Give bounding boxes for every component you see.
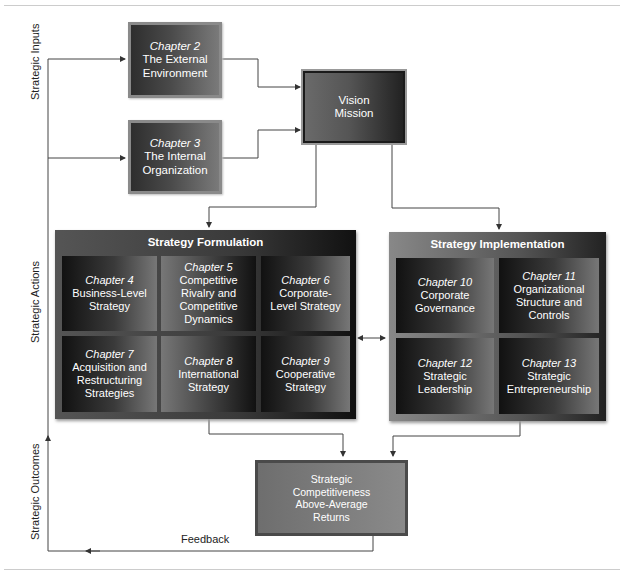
panel-title: Strategy Formulation — [55, 236, 356, 248]
cell-text: Cooperative — [276, 368, 335, 381]
cell-text: Controls — [529, 309, 570, 322]
chapter-label: Chapter 11 — [522, 270, 576, 283]
cell-text: Competitive — [179, 300, 237, 313]
implementation-cell: Chapter 11OrganizationalStructure andCon… — [499, 258, 599, 333]
cell-text: Entrepreneurship — [507, 383, 591, 396]
panel-title: Strategy Implementation — [389, 238, 606, 250]
box-text: Competitiveness — [293, 486, 371, 499]
cell-text: Restructuring — [77, 374, 142, 387]
strategic-outcomes-label: Strategic Outcomes — [29, 443, 41, 540]
cell-text: Leadership — [418, 383, 472, 396]
cell-text: Strategic — [423, 370, 466, 383]
cell-text: Organizational — [514, 283, 585, 296]
strategic-actions-label: Strategic Actions — [29, 261, 41, 343]
implementation-cell: Chapter 10CorporateGovernance — [396, 258, 494, 333]
cell-text: Strategy — [188, 381, 229, 394]
cell-text: Acquisition and — [72, 361, 147, 374]
strategy-formulation-panel: Strategy Formulation Chapter 4Business-L… — [55, 230, 356, 419]
strategy-implementation-panel: Strategy Implementation Chapter 10Corpor… — [389, 232, 606, 421]
chapter-label: Chapter 3 — [150, 137, 201, 151]
cell-text: Business-Level — [72, 287, 147, 300]
box-text: Vision — [338, 94, 369, 108]
chapter-label: Chapter 13 — [522, 357, 576, 370]
cell-text: Rivalry and — [181, 287, 236, 300]
box-text: The External — [142, 53, 207, 67]
cell-text: Strategy — [89, 300, 130, 313]
chapter-label: Chapter 5 — [184, 261, 232, 274]
strategic-inputs-label: Strategic Inputs — [29, 24, 41, 100]
chapter-label: Chapter 2 — [150, 40, 201, 54]
chapter-label: Chapter 7 — [85, 348, 133, 361]
chapter-label: Chapter 8 — [184, 355, 232, 368]
cell-text: Dynamics — [184, 313, 232, 326]
formulation-cell: Chapter 4Business-LevelStrategy — [62, 256, 157, 331]
chapter-label: Chapter 12 — [418, 357, 472, 370]
box-text: Returns — [313, 511, 350, 524]
input-internal-organization: Chapter 3 The Internal Organization — [128, 120, 222, 194]
cell-text: Strategies — [85, 387, 135, 400]
cell-text: Level Strategy — [270, 300, 340, 313]
implementation-cell: Chapter 13StrategicEntrepreneurship — [499, 338, 599, 414]
chapter-label: Chapter 6 — [281, 274, 329, 287]
cell-text: Strategy — [285, 381, 326, 394]
box-text: The Internal — [144, 150, 205, 164]
formulation-cell: Chapter 8InternationalStrategy — [161, 336, 256, 412]
formulation-cell: Chapter 5CompetitiveRivalry andCompetiti… — [161, 256, 256, 331]
box-text: Environment — [143, 67, 208, 81]
cell-text: International — [178, 368, 239, 381]
cell-text: Corporate — [421, 289, 470, 302]
chapter-label: Chapter 10 — [418, 276, 472, 289]
chapter-label: Chapter 4 — [85, 274, 133, 287]
cell-text: Structure and — [516, 296, 582, 309]
box-text: Above-Average — [295, 498, 367, 511]
feedback-label: Feedback — [181, 533, 229, 545]
formulation-cell: Chapter 7Acquisition andRestructuringStr… — [62, 336, 157, 412]
box-text: Mission — [335, 107, 374, 121]
box-text: Organization — [142, 164, 207, 178]
vision-mission-box: Vision Mission — [302, 70, 406, 144]
formulation-cell: Chapter 9CooperativeStrategy — [261, 336, 350, 412]
formulation-cell: Chapter 6Corporate-Level Strategy — [261, 256, 350, 331]
strategic-outcome-box: Strategic Competitiveness Above-Average … — [255, 460, 408, 536]
cell-text: Governance — [415, 302, 475, 315]
input-external-environment: Chapter 2 The External Environment — [128, 22, 222, 98]
cell-text: Competitive — [179, 274, 237, 287]
chapter-label: Chapter 9 — [281, 355, 329, 368]
cell-text: Strategic — [527, 370, 570, 383]
box-text: Strategic — [311, 473, 352, 486]
implementation-cell: Chapter 12StrategicLeadership — [396, 338, 494, 414]
cell-text: Corporate- — [279, 287, 332, 300]
